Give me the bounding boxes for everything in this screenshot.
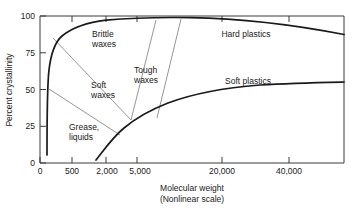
y-axis-title: Percent crystallinity <box>4 53 14 127</box>
region-label-tough-waxes: Tough waxes <box>133 65 158 85</box>
xtick-label-40000: 40,000 <box>276 166 302 176</box>
xtick-label-500: 500 <box>65 166 79 176</box>
ytick-label-50: 50 <box>26 85 36 95</box>
region-label-brittle-waxes-line2: waxes <box>91 39 116 49</box>
ytick-label-75: 75 <box>26 48 36 58</box>
xtick-label-5000: 5,000 <box>129 166 151 176</box>
crystallinity-molecular-weight-chart: 100 75 50 25 0 Percent crystallinity <box>0 0 356 208</box>
ytick-label-25: 25 <box>26 121 36 131</box>
region-label-soft-waxes-line2: waxes <box>90 90 115 100</box>
ytick-label-0: 0 <box>30 158 35 168</box>
x-axis-subtitle: (Nonlinear scale) <box>160 194 224 204</box>
region-label-brittle-waxes: Brittle waxes <box>91 29 116 49</box>
xtick-label-0: 0 <box>38 166 43 176</box>
chart-canvas: 100 75 50 25 0 Percent crystallinity <box>0 0 356 208</box>
region-divider-lines <box>49 19 181 135</box>
curve-label-soft-plastics: Soft plastics <box>225 76 271 86</box>
x-axis-ticks <box>40 157 289 163</box>
ytick-label-100: 100 <box>21 11 35 21</box>
y-axis-tick-labels: 100 75 50 25 0 <box>21 11 35 168</box>
region-label-tough-waxes-line2: waxes <box>133 75 158 85</box>
xtick-label-2000: 2,000 <box>96 166 118 176</box>
region-label-grease-liquids: Grease, liquids <box>69 122 99 142</box>
region-label-grease-liquids-line1: Grease, <box>69 122 99 132</box>
divider-softwaxes-brittlewaxes <box>53 38 131 120</box>
region-label-soft-waxes-line1: Soft <box>91 80 107 90</box>
curve-soft-plastics <box>96 82 344 160</box>
region-label-tough-waxes-line1: Tough <box>134 65 157 75</box>
region-label-soft-waxes: Soft waxes <box>90 80 115 100</box>
x-axis-title: Molecular weight <box>160 183 224 193</box>
xtick-label-20000: 20,000 <box>209 166 235 176</box>
y-axis-ticks <box>40 16 46 163</box>
region-label-grease-liquids-line2: liquids <box>69 132 93 142</box>
region-label-brittle-waxes-line1: Brittle <box>92 29 114 39</box>
curve-label-hard-plastics: Hard plastics <box>221 29 270 39</box>
x-axis-tick-labels: 0 500 2,000 5,000 20,000 40,000 <box>38 166 303 176</box>
